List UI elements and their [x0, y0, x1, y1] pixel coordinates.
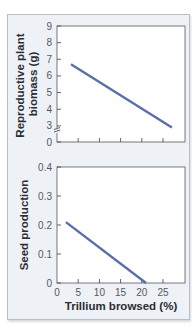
axis-break-icon: [53, 128, 61, 134]
top-chart: 03456789 Reproductive plant biomass (g): [14, 21, 185, 148]
y-tick-label: 9: [46, 21, 52, 32]
top-y-axis-title: Reproductive plant biomass (g): [14, 30, 39, 137]
y-tick-label: 7: [46, 54, 52, 65]
chart-figure: 03456789 Reproductive plant biomass (g) …: [0, 0, 194, 328]
x-tick-label: 5: [75, 287, 81, 298]
top-y-axis-title-line1: Reproductive plant: [14, 33, 26, 137]
bottom-plot-area: [57, 167, 185, 283]
top-y-axis-title-line2: biomass (g): [27, 52, 39, 117]
x-tick-label: 25: [157, 287, 169, 298]
y-tick-label: 0: [46, 278, 52, 289]
y-tick-label: 4: [46, 104, 52, 115]
x-tick-label: 10: [94, 287, 106, 298]
y-tick-label: 0.4: [38, 162, 52, 173]
y-tick-label: 0.1: [38, 249, 52, 260]
y-tick-label: 6: [46, 70, 52, 81]
y-tick-label: 3: [46, 120, 52, 131]
x-tick-label: 20: [136, 287, 148, 298]
y-tick-label: 0.2: [38, 220, 52, 231]
y-tick-label: 0: [46, 137, 52, 148]
y-tick-label: 8: [46, 37, 52, 48]
y-tick-label: 0.3: [38, 191, 52, 202]
x-tick-label: 15: [115, 287, 127, 298]
bottom-chart: 00.10.20.30.4 0510152025 Seed production…: [18, 162, 185, 313]
y-tick-label: 5: [46, 87, 52, 98]
x-tick-label: 0: [54, 287, 60, 298]
bottom-y-axis-title: Seed production: [18, 180, 30, 271]
bottom-x-axis-title: Trillium browsed (%): [65, 300, 178, 312]
